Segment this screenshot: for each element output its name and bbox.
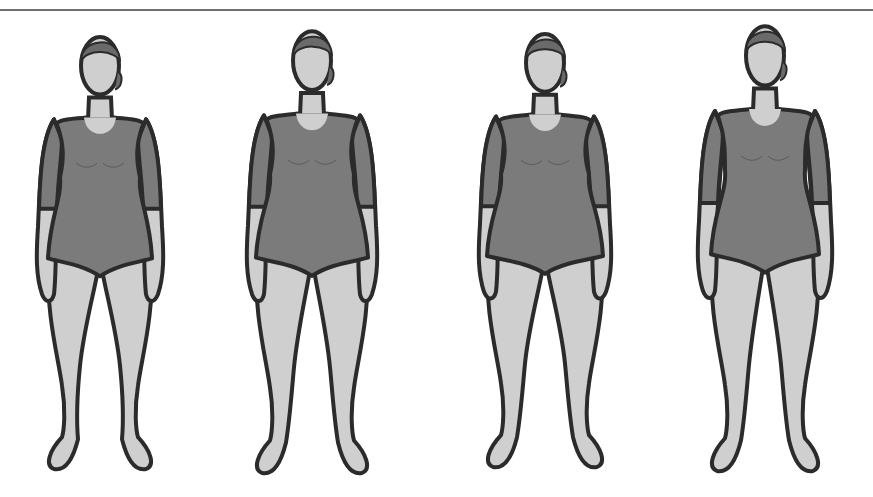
- neck: [753, 89, 777, 111]
- figure-3: [479, 34, 611, 467]
- body-shapes-illustration: [0, 0, 873, 497]
- neck: [300, 93, 324, 115]
- bodysuit-torso: [48, 117, 152, 276]
- bodysuit-torso: [256, 113, 368, 276]
- figure-2: [247, 31, 377, 473]
- figure-4: [698, 26, 832, 471]
- bodysuit-torso: [711, 109, 819, 273]
- right-leg: [765, 252, 819, 471]
- bodysuit-torso: [487, 115, 603, 274]
- figure-1: [37, 37, 163, 469]
- neck: [533, 95, 557, 117]
- left-leg: [711, 252, 765, 471]
- neck: [88, 98, 112, 120]
